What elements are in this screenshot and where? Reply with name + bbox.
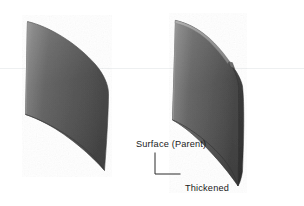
- leader-line: [155, 153, 180, 174]
- label-thickened-line1: Thickened: [185, 183, 229, 194]
- label-surface-parent: Surface (Parent): [136, 139, 206, 150]
- surface-illustration: [0, 0, 304, 206]
- parent-surface-vertical-shade: [26, 22, 109, 171]
- leader-line-path: [155, 153, 180, 174]
- label-thickened-feature: Thickened Feature (Child): [185, 160, 229, 206]
- parent-surface-shape: [26, 22, 109, 171]
- figure-canvas: Surface (Parent) Thickened Feature (Chil…: [0, 0, 304, 206]
